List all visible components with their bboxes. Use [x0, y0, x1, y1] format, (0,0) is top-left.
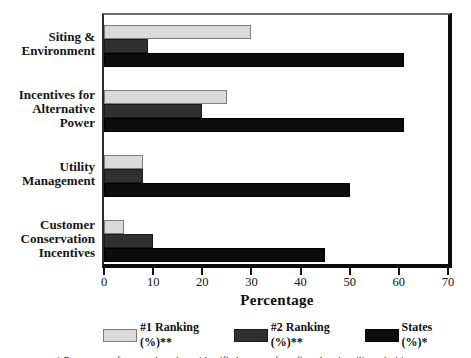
bar [104, 25, 251, 39]
x-tick-mark [201, 268, 203, 275]
category-label-line: Alternative Power [0, 102, 95, 130]
category-label-line: Customer [40, 218, 95, 232]
legend-label: States (%)* [402, 320, 461, 350]
x-tick-mark [349, 268, 351, 275]
bar [104, 169, 143, 183]
category-label-line: Siting & [48, 30, 95, 44]
legend-item: States (%)* [365, 320, 461, 350]
legend-swatch [234, 329, 268, 342]
bar [104, 183, 350, 197]
x-tick-label: 0 [101, 275, 107, 290]
legend-swatch [365, 329, 399, 342]
chart-area: Siting &EnvironmentIncentives forAlterna… [0, 0, 471, 309]
legend: #1 Ranking (%)**#2 Ranking (%)**States (… [103, 320, 461, 350]
category-label-line: Management [22, 174, 95, 188]
legend-item: #1 Ranking (%)** [103, 320, 234, 350]
bar-group [104, 220, 448, 262]
category-labels: Siting &EnvironmentIncentives forAlterna… [0, 13, 102, 309]
bar [104, 39, 148, 53]
bar [104, 53, 404, 67]
x-tick-label: 60 [393, 275, 406, 290]
x-tick-label: 40 [294, 275, 307, 290]
bar [104, 155, 143, 169]
x-tick-label: 70 [442, 275, 455, 290]
bar-group [104, 155, 448, 197]
bar-group [104, 90, 448, 132]
x-axis-tick-labels: 010203040506070 [104, 275, 448, 289]
bar-chart-figure: Siting &EnvironmentIncentives forAlterna… [0, 0, 471, 358]
bar [104, 118, 404, 132]
x-tick-mark [447, 268, 449, 275]
x-tick-mark [398, 268, 400, 275]
plot-column: 010203040506070 Percentage [102, 13, 452, 309]
x-tick-label: 50 [343, 275, 356, 290]
bar-group [104, 25, 448, 67]
category-label-line: Incentives [39, 246, 95, 260]
category-label-line: Environment [22, 44, 95, 58]
x-tick-label: 30 [245, 275, 258, 290]
category-label: CustomerConservationIncentives [0, 218, 102, 260]
bar [104, 90, 227, 104]
x-axis-ticks [104, 268, 448, 275]
category-label-line: Incentives for [19, 88, 95, 102]
x-tick-label: 20 [196, 275, 209, 290]
x-tick-mark [250, 268, 252, 275]
plot-area [102, 13, 452, 268]
legend-label: #1 Ranking (%)** [140, 320, 234, 350]
bar [104, 248, 325, 262]
category-label-line: Conservation [21, 232, 95, 246]
category-label: Incentives forAlternative Power [0, 88, 102, 130]
bar [104, 234, 153, 248]
x-axis-title: Percentage [102, 292, 452, 309]
bar [104, 104, 202, 118]
legend-label: #2 Ranking (%)** [271, 320, 365, 350]
category-label-line: Utility [60, 160, 95, 174]
x-tick-mark [152, 268, 154, 275]
legend-swatch [103, 329, 137, 342]
x-tick-mark [300, 268, 302, 275]
x-tick-mark [103, 268, 105, 275]
x-tick-label: 10 [147, 275, 160, 290]
legend-item: #2 Ranking (%)** [234, 320, 365, 350]
category-label: Siting &Environment [0, 23, 102, 65]
bar [104, 220, 124, 234]
category-label: UtilityManagement [0, 153, 102, 195]
